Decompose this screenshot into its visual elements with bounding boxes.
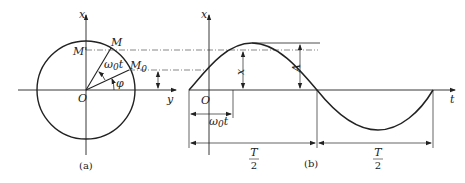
figure-b-caption: (b) — [304, 158, 318, 169]
svg-text:T: T — [374, 146, 383, 159]
a-y-axis-label: y — [166, 93, 174, 106]
svg-text:2: 2 — [251, 160, 257, 171]
angle-arc-phi — [112, 79, 114, 90]
svg-text:2: 2 — [375, 160, 381, 171]
point-M0-label: M0 — [129, 59, 147, 74]
a-x-axis-label: x — [79, 8, 86, 21]
point-M-label: M — [110, 36, 123, 49]
half-period-label-1: T 2 — [249, 146, 259, 171]
angle-wt-label: ω0t — [104, 58, 124, 72]
figure-a-caption: (a) — [79, 160, 93, 171]
angle-phi-label: φ — [116, 77, 124, 90]
angle-arc-wt — [99, 72, 105, 80]
point-M-prime-label: M' — [72, 45, 87, 58]
b-x-axis-label: x — [201, 8, 208, 21]
figure-a-rotating-vector: x y O M M' M0 ω0t φ (a) — [18, 8, 318, 171]
displacement-label: x — [234, 68, 247, 75]
a-origin-label: O — [78, 92, 87, 105]
b-origin-label: O — [201, 94, 210, 107]
svg-text:T: T — [250, 146, 259, 159]
amplitude-label: A — [290, 64, 303, 73]
harmonic-motion-diagram: x y O M M' M0 ω0t φ (a) x t O x A ω0t T — [0, 0, 465, 183]
phase-time-label: ω0t — [209, 115, 229, 129]
half-period-label-2: T 2 — [373, 146, 383, 171]
figure-b-displacement-curve: x t O x A ω0t T 2 T 2 (b) — [189, 8, 455, 171]
b-t-axis-label: t — [450, 93, 455, 106]
